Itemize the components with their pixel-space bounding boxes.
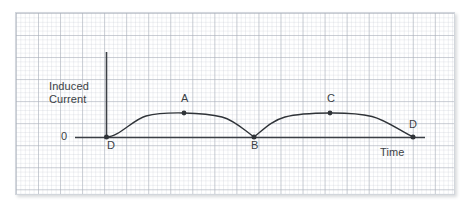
point-label-C: C — [327, 92, 335, 105]
y-axis-zero-label: 0 — [61, 130, 67, 143]
point-label-D-end: D — [409, 118, 417, 131]
x-axis-title: Time — [380, 146, 404, 159]
point-label-A: A — [181, 92, 188, 105]
y-axis-title-line2: Current — [49, 93, 86, 105]
figure-canvas: InducedCurrent 0 Time D A B C D — [0, 0, 469, 213]
point-label-D-origin: D — [107, 139, 115, 152]
y-axis-title: InducedCurrent — [49, 80, 89, 105]
y-axis-title-line1: Induced — [49, 80, 89, 92]
point-label-B: B — [251, 139, 258, 152]
